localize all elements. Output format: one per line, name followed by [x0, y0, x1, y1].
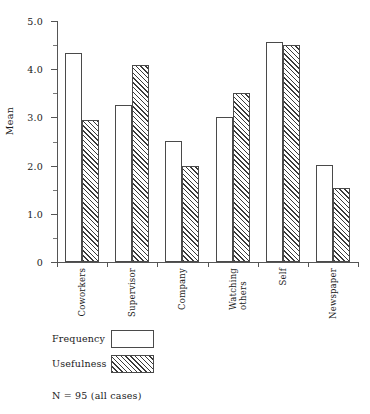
x-axis-label-self: Self: [279, 268, 289, 286]
y-tick-minor: [53, 45, 57, 46]
y-tick-minor: [53, 93, 57, 94]
x-axis-label-line: Newspaper: [328, 268, 338, 319]
plot-area: 01.02.03.04.05.0: [57, 21, 358, 262]
bar-usefulness-newspaper: [333, 188, 350, 262]
sample-size-note: N = 95 (all cases): [52, 390, 142, 401]
legend-swatch-usefulness: [111, 355, 154, 373]
x-axis-label-line: Supervisor: [127, 268, 137, 317]
x-axis-label-line: Watching: [228, 268, 238, 310]
legend-label: Usefulness: [52, 358, 107, 369]
bar-usefulness-watching-others: [233, 93, 250, 262]
legend-item-usefulness: Usefulness: [52, 355, 252, 380]
legend-swatch-frequency: [111, 330, 154, 348]
y-tick-label: 5.0: [27, 16, 43, 27]
y-tick-label: 3.0: [27, 112, 43, 123]
bar-frequency-self: [266, 42, 283, 262]
y-tick-major: 1.0: [51, 214, 57, 215]
x-axis-label-line: Self: [278, 268, 288, 286]
x-axis-label-coworkers: Coworkers: [78, 268, 88, 316]
y-axis-title: Mean: [4, 107, 15, 135]
x-axis-label-line: Company: [177, 268, 187, 310]
bar-usefulness-supervisor: [132, 65, 149, 262]
x-axis-tick: [358, 262, 359, 267]
bar-frequency-supervisor: [115, 105, 132, 262]
legend-item-frequency: Frequency: [52, 330, 252, 355]
y-tick-label: 2.0: [27, 160, 43, 171]
x-axis-label-company: Company: [178, 268, 188, 310]
x-axis-tick: [57, 262, 58, 267]
x-axis-label-supervisor: Supervisor: [128, 268, 138, 317]
y-tick-minor: [53, 190, 57, 191]
legend-label: Frequency: [52, 333, 105, 344]
bar-usefulness-self: [283, 45, 300, 262]
chart-legend: FrequencyUsefulness: [52, 330, 252, 380]
y-tick-major: 2.0: [51, 166, 57, 167]
x-axis-label-line: others: [238, 268, 248, 310]
x-axis-tick: [157, 262, 158, 267]
y-tick-label: 0: [37, 257, 43, 268]
x-axis-tick: [107, 262, 108, 267]
x-axis-tick: [258, 262, 259, 267]
y-tick-minor: [53, 142, 57, 143]
bar-frequency-company: [165, 141, 182, 262]
x-axis-label-newspaper: Newspaper: [329, 268, 339, 319]
x-axis-tick: [308, 262, 309, 267]
y-tick-major: 5.0: [51, 21, 57, 22]
y-axis-line: [57, 21, 58, 262]
bar-frequency-coworkers: [65, 53, 82, 262]
bar-usefulness-coworkers: [82, 120, 99, 262]
x-axis-tick: [208, 262, 209, 267]
y-tick-major: 4.0: [51, 69, 57, 70]
chart-figure: Mean 01.02.03.04.05.0 CoworkersSuperviso…: [0, 0, 370, 414]
bar-usefulness-company: [182, 166, 199, 262]
bar-frequency-newspaper: [316, 165, 333, 262]
x-axis-label-watching-others: Watchingothers: [229, 268, 248, 310]
y-tick-major: 3.0: [51, 117, 57, 118]
bar-frequency-watching-others: [216, 117, 233, 262]
y-tick-label: 1.0: [27, 208, 43, 219]
y-tick-label: 4.0: [27, 64, 43, 75]
y-tick-minor: [53, 238, 57, 239]
x-axis-label-line: Coworkers: [77, 268, 87, 316]
